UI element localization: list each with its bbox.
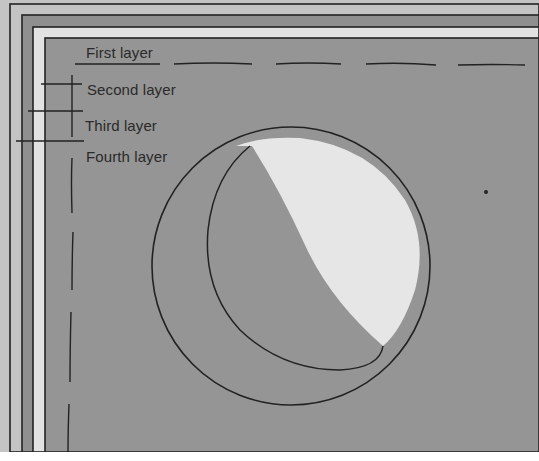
layer-diagram: [0, 0, 539, 461]
dot-mark: [484, 190, 488, 194]
label-first-layer: First layer: [86, 44, 153, 61]
label-second-layer: Second layer: [87, 81, 176, 98]
label-fourth-layer: Fourth layer: [86, 148, 167, 165]
label-third-layer: Third layer: [85, 117, 157, 134]
